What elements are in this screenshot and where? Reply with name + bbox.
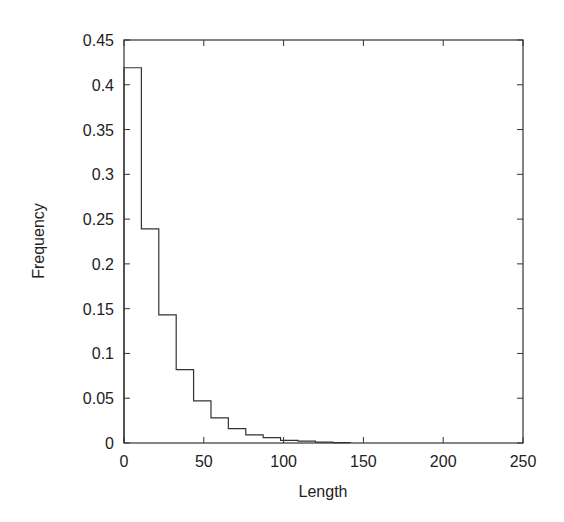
x-tick-label: 200 (430, 453, 457, 470)
y-tick-label: 0 (105, 435, 114, 452)
y-tick-labels: 00.050.10.150.20.250.30.350.40.45 (83, 32, 114, 452)
histogram-step-line (124, 68, 350, 443)
x-tick-label: 50 (195, 453, 213, 470)
axis-ticks (124, 40, 523, 443)
x-tick-label: 250 (510, 453, 537, 470)
histogram-chart: 00.050.10.150.20.250.30.350.40.45 050100… (0, 0, 564, 522)
x-tick-label: 0 (120, 453, 129, 470)
y-tick-label: 0.1 (92, 345, 114, 362)
y-tick-label: 0.35 (83, 122, 114, 139)
x-tick-labels: 050100150200250 (120, 453, 537, 470)
y-tick-label: 0.05 (83, 390, 114, 407)
x-tick-label: 150 (350, 453, 377, 470)
x-tick-label: 100 (270, 453, 297, 470)
y-tick-label: 0.25 (83, 211, 114, 228)
plot-frame (124, 40, 523, 443)
y-tick-label: 0.45 (83, 32, 114, 49)
y-tick-label: 0.15 (83, 301, 114, 318)
x-axis-label: Length (299, 483, 348, 500)
y-axis-label: Frequency (30, 203, 47, 279)
y-tick-label: 0.4 (92, 77, 114, 94)
chart-canvas: 00.050.10.150.20.250.30.350.40.45 050100… (0, 0, 564, 522)
y-tick-label: 0.2 (92, 256, 114, 273)
y-tick-label: 0.3 (92, 166, 114, 183)
